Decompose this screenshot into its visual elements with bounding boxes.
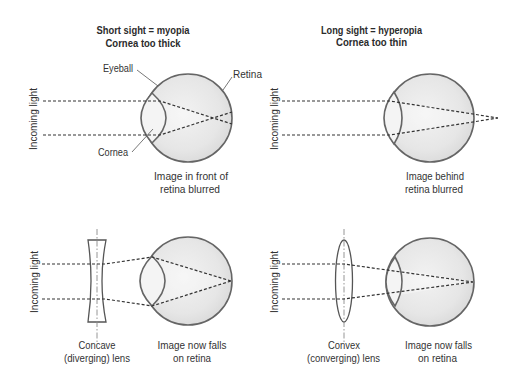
caption-line-1: Image in front of: [154, 170, 228, 182]
incoming-light-label: Incoming light: [268, 88, 280, 150]
lens-label-line-2: (converging) lens: [307, 352, 380, 364]
retina-label: Retina: [233, 68, 262, 80]
caption-line-2: on retina: [418, 352, 457, 364]
lens-label-line-1: Concave: [79, 339, 116, 351]
panel-subtitle: Cornea too thin: [336, 36, 407, 48]
cornea-label: Cornea: [98, 146, 128, 158]
panel-title: Long sight = hyperopia: [321, 24, 422, 36]
incoming-light-label: Incoming light: [268, 251, 280, 313]
caption-line-2: on retina: [173, 352, 211, 364]
caption-line-1: Image now falls: [405, 339, 472, 351]
caption-line-2: retina blurred: [405, 183, 463, 195]
incoming-light-label: Incoming light: [27, 88, 39, 150]
panel-subtitle: Cornea too thick: [106, 37, 181, 49]
caption-line-1: Image behind: [406, 170, 464, 182]
caption-line-2: retina blurred: [160, 183, 220, 195]
eyeball-label: Eyeball: [103, 62, 133, 74]
caption-line-1: Image now falls: [158, 339, 227, 351]
panel-title: Short sight = myopia: [97, 24, 190, 36]
eye-defects-diagram: Short sight = myopia Cornea too thick In…: [0, 0, 525, 387]
incoming-light-label: Incoming light: [28, 251, 40, 313]
lens-label-line-2: (diverging) lens: [64, 352, 130, 364]
lens-label-line-1: Convex: [328, 339, 361, 351]
